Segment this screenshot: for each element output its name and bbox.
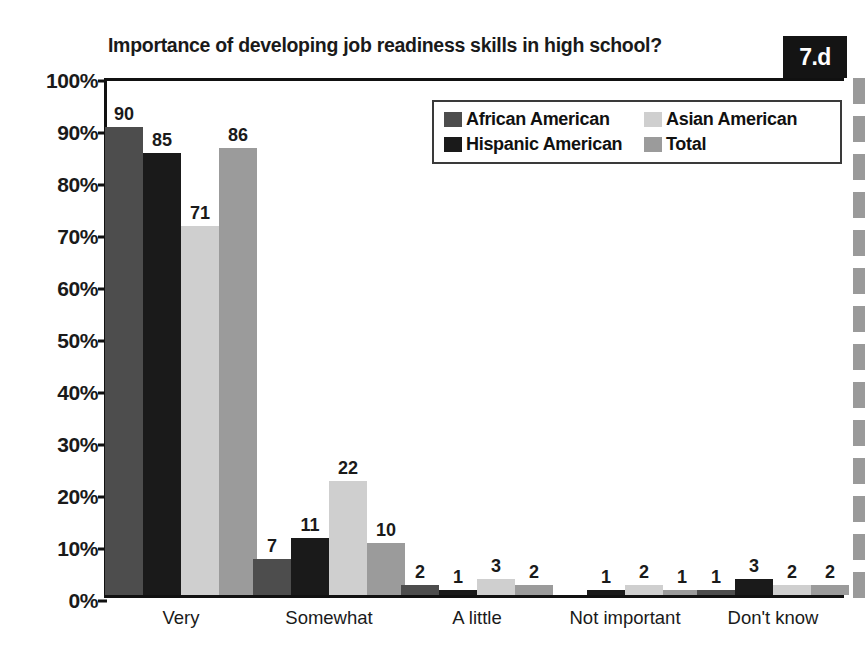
bar: 2	[773, 585, 811, 595]
bar-group: 90857186	[105, 81, 257, 595]
y-axis-tick-label: 100%	[46, 69, 98, 93]
status-badge: 7.d	[783, 36, 847, 78]
scanned-page-edge	[853, 78, 865, 608]
bar-value-label: 1	[453, 567, 463, 588]
x-axis-category-label: Very	[162, 607, 199, 629]
bar: 2	[811, 585, 849, 595]
bar-value-label: 85	[152, 130, 172, 151]
bar-group: 7112210	[253, 81, 405, 595]
y-axis-tick-label: 50%	[57, 329, 98, 353]
y-axis-tick-label: 0%	[68, 589, 98, 613]
y-axis-tick-label: 10%	[57, 537, 98, 561]
x-axis-category-label: Don't know	[728, 607, 819, 629]
page-title: Importance of developing job readiness s…	[108, 34, 662, 57]
y-axis-tick-mark	[98, 600, 107, 603]
bar-value-label: 2	[529, 562, 539, 583]
bar-value-label: 11	[300, 515, 319, 536]
bar: 71	[181, 226, 219, 595]
bar: 2	[515, 585, 553, 595]
bar: 3	[477, 579, 515, 595]
legend-color-swatch	[644, 137, 662, 152]
legend-label: Total	[666, 134, 706, 155]
bar-value-label: 3	[749, 556, 759, 577]
bar: 3	[735, 579, 773, 595]
bar: 1	[439, 590, 477, 595]
bar: 2	[401, 585, 439, 595]
y-axis-tick-label: 90%	[57, 121, 98, 145]
y-axis-tick-label: 30%	[57, 433, 98, 457]
legend-item: Total	[644, 134, 844, 155]
legend-color-swatch	[644, 112, 662, 127]
bar-value-label: 1	[677, 567, 687, 588]
bar: 85	[143, 153, 181, 595]
bar-value-label: 22	[338, 458, 358, 479]
bar: 86	[219, 148, 257, 595]
bar-value-label: 1	[601, 567, 611, 588]
y-axis-tick-label: 40%	[57, 381, 98, 405]
legend-item: African American	[444, 109, 644, 130]
x-axis-category-label: Somewhat	[285, 607, 372, 629]
bar: 1	[663, 590, 701, 595]
legend-color-swatch	[444, 112, 462, 127]
bar-value-label: 71	[190, 203, 210, 224]
bar: 22	[329, 481, 367, 595]
legend-item: Asian American	[644, 109, 844, 130]
bar: 7	[253, 559, 291, 595]
x-axis-category-label: Not important	[569, 607, 680, 629]
bar-value-label: 1	[711, 567, 721, 588]
bar-value-label: 90	[114, 104, 134, 125]
x-axis-category-label: A little	[452, 607, 501, 629]
y-axis-tick-label: 70%	[57, 225, 98, 249]
y-axis-tick-label: 80%	[57, 173, 98, 197]
chart-legend: African AmericanAsian AmericanHispanic A…	[432, 100, 842, 164]
chart-page: Importance of developing job readiness s…	[0, 0, 865, 669]
bar-value-label: 7	[267, 536, 277, 557]
legend-item: Hispanic American	[444, 134, 644, 155]
bar-value-label: 2	[825, 562, 835, 583]
y-axis-tick-label: 60%	[57, 277, 98, 301]
legend-label: Asian American	[666, 109, 797, 130]
legend-label: Hispanic American	[466, 134, 622, 155]
bar-value-label: 10	[376, 520, 396, 541]
bar-value-label: 86	[228, 125, 248, 146]
bar: 1	[697, 590, 735, 595]
bar-value-label: 3	[491, 556, 501, 577]
bar-value-label: 2	[415, 562, 425, 583]
bar: 11	[291, 538, 329, 595]
bar: 2	[625, 585, 663, 595]
bar-value-label: 2	[639, 562, 649, 583]
bar: 1	[587, 590, 625, 595]
y-axis-tick-label: 20%	[57, 485, 98, 509]
bar: 10	[367, 543, 405, 595]
bar-value-label: 2	[787, 562, 797, 583]
bar: 90	[105, 127, 143, 595]
legend-color-swatch	[444, 137, 462, 152]
legend-label: African American	[466, 109, 610, 130]
